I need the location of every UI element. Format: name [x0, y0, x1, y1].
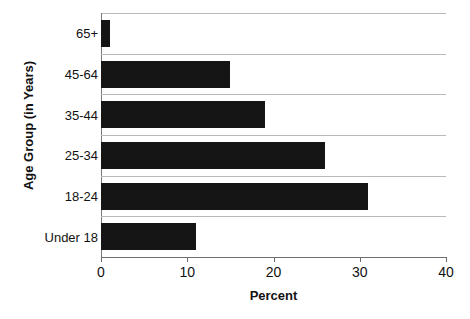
bar-65- — [101, 20, 110, 47]
plot-top-border — [101, 13, 446, 14]
y-tick-label: 35-44 — [20, 107, 98, 122]
gridline — [101, 54, 446, 55]
bar-18-24 — [101, 183, 368, 210]
y-tick-label: 45-64 — [20, 67, 98, 82]
x-tick-label: 40 — [438, 264, 454, 280]
x-tick — [101, 257, 102, 262]
gridline — [101, 94, 446, 95]
y-tick-label: 18-24 — [20, 189, 98, 204]
x-tick-label: 20 — [266, 264, 282, 280]
scan-artifact — [0, 308, 470, 319]
bar-under-18 — [101, 223, 196, 250]
x-tick — [274, 257, 275, 262]
y-axis-tick-labels: Under 1818-2425-3435-4445-6465+ — [20, 13, 98, 257]
x-axis-tick-labels: 010203040 — [101, 264, 446, 286]
y-tick-label: 65+ — [20, 26, 98, 41]
x-axis-ticks — [101, 257, 446, 263]
y-tick-label: Under 18 — [20, 229, 98, 244]
x-tick-label: 0 — [97, 264, 105, 280]
x-tick — [187, 257, 188, 262]
plot-area — [101, 13, 446, 257]
y-tick-label: 25-34 — [20, 148, 98, 163]
bar-chart: Age Group (in Years) Under 1818-2425-343… — [0, 0, 470, 319]
bar-25-34 — [101, 142, 325, 169]
x-tick — [446, 257, 447, 262]
x-tick — [360, 257, 361, 262]
bar-45-64 — [101, 61, 230, 88]
gridline — [101, 135, 446, 136]
bar-35-44 — [101, 101, 265, 128]
x-tick-label: 10 — [179, 264, 195, 280]
x-axis-title: Percent — [101, 288, 446, 303]
x-tick-label: 30 — [352, 264, 368, 280]
gridline — [101, 216, 446, 217]
gridline — [101, 176, 446, 177]
